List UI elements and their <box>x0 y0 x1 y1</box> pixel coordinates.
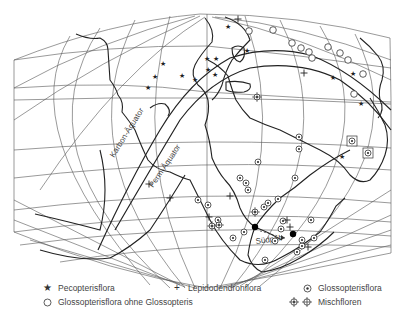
svg-text:★: ★ <box>204 55 210 62</box>
legend-item-pecopteris: ★ Pecopterisflora <box>40 282 115 293</box>
pecopteris-star-icon: ★★★★★★★★★★★★★★★ <box>145 23 364 160</box>
svg-text:★: ★ <box>350 70 356 77</box>
plus-icon: + <box>170 282 184 293</box>
legend-item-mixed: Mischfloren <box>288 296 361 307</box>
mixed-flora-icon <box>207 92 262 231</box>
legend: ★ Pecopterisflora + Lepidodendronflora G… <box>0 280 414 320</box>
svg-text:★: ★ <box>152 73 158 80</box>
flora-markers: ★★★★★★★★★★★★★★★ <box>145 16 373 264</box>
mixed-flora-icon <box>288 296 314 307</box>
glossopteris-without-circle-icon <box>246 27 367 98</box>
legend-label: Pecopterisflora <box>58 283 115 293</box>
legend-label: Lepidodendronflora <box>188 283 261 293</box>
legend-label: Glossopterisflora <box>318 283 382 293</box>
legend-item-glossopteris: Glossopterisflora <box>300 282 382 293</box>
perm-equator-line <box>115 66 391 230</box>
star-icon: ★ <box>40 282 54 293</box>
projection-grid <box>14 14 391 288</box>
svg-text:★: ★ <box>160 60 166 67</box>
paleogeographic-map: Karbon-Äquator Perm-Äquator Südpol ★★★★★… <box>0 0 414 320</box>
svg-text:★: ★ <box>330 74 336 81</box>
karbon-equator-label: Karbon-Äquator <box>108 106 146 159</box>
circle-icon <box>40 296 54 307</box>
dot-circle-icon <box>300 282 314 293</box>
legend-label: Glossopterisflora ohne Glossopteris <box>58 297 193 307</box>
svg-text:★: ★ <box>225 23 231 30</box>
glossopteris-boxed-icon <box>347 136 373 158</box>
svg-text:★: ★ <box>179 72 185 79</box>
legend-label: Mischfloren <box>318 297 361 307</box>
svg-text:★: ★ <box>192 76 198 83</box>
svg-text:★: ★ <box>358 100 364 107</box>
svg-text:★: ★ <box>212 71 218 78</box>
legend-item-lepidodendron: + Lepidodendronflora <box>170 282 261 293</box>
karbon-equator-line <box>98 51 391 250</box>
svg-text:★: ★ <box>339 153 345 160</box>
svg-text:★: ★ <box>205 66 211 73</box>
legend-item-glossopteris-without: Glossopterisflora ohne Glossopteris <box>40 296 193 307</box>
svg-text:★: ★ <box>213 55 219 62</box>
svg-text:★: ★ <box>145 84 151 91</box>
svg-text:★: ★ <box>244 47 250 54</box>
